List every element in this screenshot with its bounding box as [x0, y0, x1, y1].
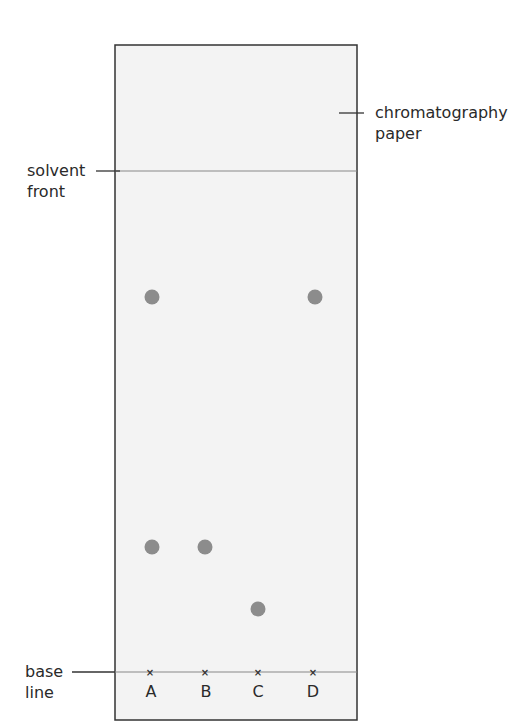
origin-cross-icon: ×: [201, 667, 209, 678]
base-label-1: base: [25, 662, 63, 681]
solvent-label-2: front: [27, 182, 65, 201]
chromatography-paper: [115, 45, 357, 720]
lane-label-c: C: [252, 683, 263, 701]
spot-b: [198, 540, 213, 555]
solvent-label-1: solvent: [27, 161, 85, 180]
spot-a: [145, 290, 160, 305]
spot-d: [308, 290, 323, 305]
origin-cross-icon: ×: [146, 667, 154, 678]
paper-label-1: chromatography: [375, 103, 508, 122]
lane-label-a: A: [146, 683, 157, 701]
paper-label-2: paper: [375, 124, 422, 143]
origin-cross-icon: ×: [309, 667, 317, 678]
lane-label-d: D: [307, 683, 319, 701]
base-label-2: line: [25, 683, 54, 702]
lane-label-b: B: [201, 683, 212, 701]
spot-a: [145, 540, 160, 555]
spot-c: [251, 602, 266, 617]
origin-cross-icon: ×: [254, 667, 262, 678]
